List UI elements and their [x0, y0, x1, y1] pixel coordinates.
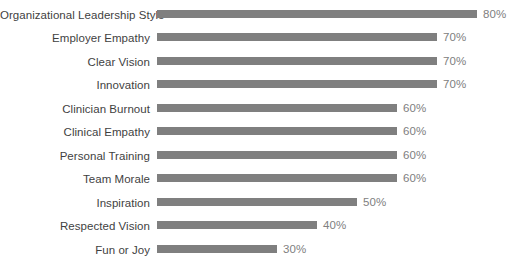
bar-fill	[157, 80, 437, 88]
bar-row: Innovation70%	[0, 73, 526, 97]
category-label: Innovation	[0, 79, 150, 92]
category-label: Clinician Burnout	[0, 102, 150, 115]
bar-track	[157, 245, 277, 253]
bar-fill	[157, 151, 397, 159]
value-label: 70%	[443, 55, 466, 68]
bar-track	[157, 221, 317, 229]
bar-row: Clinician Burnout60%	[0, 96, 526, 120]
bar-row: Inspiration50%	[0, 190, 526, 214]
plot-area: Organizational Leadership Style80%Employ…	[0, 0, 526, 276]
bar-row: Personal Training60%	[0, 143, 526, 167]
bar-row: Team Morale60%	[0, 167, 526, 191]
value-label: 30%	[283, 243, 306, 256]
bar-track	[157, 151, 397, 159]
bar-track	[157, 10, 477, 18]
category-label: Personal Training	[0, 149, 150, 162]
bar-fill	[157, 57, 437, 65]
bar-fill	[157, 104, 397, 112]
category-label: Team Morale	[0, 173, 150, 186]
bar-track	[157, 57, 437, 65]
bar-row: Clinical Empathy60%	[0, 120, 526, 144]
category-label: Clinical Empathy	[0, 126, 150, 139]
bar-row: Employer Empathy70%	[0, 26, 526, 50]
category-label: Employer Empathy	[0, 32, 150, 45]
bar-fill	[157, 221, 317, 229]
bar-track	[157, 198, 357, 206]
bar-fill	[157, 245, 277, 253]
bar-fill	[157, 174, 397, 182]
bar-row: Respected Vision40%	[0, 214, 526, 238]
bar-row: Clear Vision70%	[0, 49, 526, 73]
value-label: 60%	[403, 125, 426, 138]
category-label: Inspiration	[0, 196, 150, 209]
category-label: Fun or Joy	[0, 243, 150, 256]
bar-track	[157, 127, 397, 135]
value-label: 80%	[483, 8, 506, 21]
bar-track	[157, 33, 437, 41]
bar-fill	[157, 33, 437, 41]
bar-track	[157, 80, 437, 88]
bar-fill	[157, 198, 357, 206]
value-label: 60%	[403, 172, 426, 185]
bar-chart: Organizational Leadership Style80%Employ…	[0, 0, 526, 276]
bar-row: Fun or Joy30%	[0, 237, 526, 261]
category-label: Respected Vision	[0, 220, 150, 233]
category-label: Clear Vision	[0, 55, 150, 68]
value-label: 40%	[323, 219, 346, 232]
value-label: 70%	[443, 31, 466, 44]
bar-fill	[157, 10, 477, 18]
value-label: 60%	[403, 149, 426, 162]
value-label: 70%	[443, 78, 466, 91]
category-label: Organizational Leadership Style	[0, 8, 150, 21]
bar-fill	[157, 127, 397, 135]
value-label: 60%	[403, 102, 426, 115]
bar-track	[157, 104, 397, 112]
bar-row: Organizational Leadership Style80%	[0, 2, 526, 26]
value-label: 50%	[363, 196, 386, 209]
bar-track	[157, 174, 397, 182]
